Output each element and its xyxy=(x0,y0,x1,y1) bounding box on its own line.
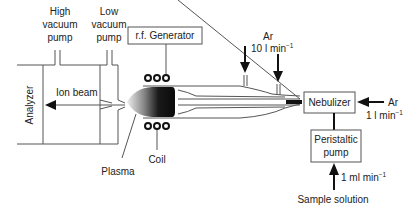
coil-label: Coil xyxy=(148,154,165,165)
svg-text:Nebulizer: Nebulizer xyxy=(308,97,351,108)
svg-text:Peristaltic: Peristaltic xyxy=(314,134,357,145)
rf-generator-box: r.f. Generator xyxy=(128,27,202,74)
injector-tip xyxy=(286,100,302,104)
ion-beam-label: Ion beam xyxy=(56,87,98,98)
svg-text:vacuum: vacuum xyxy=(42,19,77,30)
plasma-label: Plasma xyxy=(101,166,135,177)
icp-ms-diagram: High vacuum pump Low vacuum pump Analyze… xyxy=(0,0,420,212)
sample-flow: 1 ml min−1 xyxy=(341,171,387,183)
coil-bottom xyxy=(145,123,169,129)
sample-inlet-arrow xyxy=(329,163,339,190)
coil-top xyxy=(145,75,169,81)
ar-right-label: Ar xyxy=(388,97,399,108)
low-vacuum-pump-label: Low vacuum pump xyxy=(91,6,126,43)
svg-text:pump: pump xyxy=(96,32,121,43)
svg-text:pump: pump xyxy=(323,147,348,158)
peristaltic-pump-box: Peristaltic pump xyxy=(311,130,361,162)
svg-text:Low: Low xyxy=(100,6,119,17)
svg-text:pump: pump xyxy=(47,32,72,43)
high-vacuum-pump-label: High vacuum pump xyxy=(42,6,77,43)
ion-beam-arrow xyxy=(45,100,125,110)
ar-right-flow: 1 l min−1 xyxy=(366,109,403,121)
sample-solution-label: Sample solution xyxy=(297,194,368,205)
analyzer-label: Analyzer xyxy=(24,85,35,125)
svg-text:High: High xyxy=(50,6,71,17)
ar-top-label: Ar xyxy=(263,31,274,42)
ar-top-flow: 10 l min−1 xyxy=(251,42,294,54)
svg-text:vacuum: vacuum xyxy=(91,19,126,30)
ar-nebulizer-arrow xyxy=(357,97,384,107)
svg-text:r.f. Generator: r.f. Generator xyxy=(136,30,196,41)
plasma xyxy=(127,87,175,117)
nebulizer-box: Nebulizer xyxy=(304,92,355,113)
